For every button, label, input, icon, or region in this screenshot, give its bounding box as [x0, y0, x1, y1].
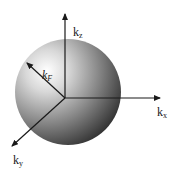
kx-label: kx — [157, 105, 167, 120]
fermi-sphere-diagram: kz kx ky kF — [0, 0, 178, 174]
ky-label: ky — [13, 153, 23, 168]
kz-label: kz — [73, 25, 83, 40]
